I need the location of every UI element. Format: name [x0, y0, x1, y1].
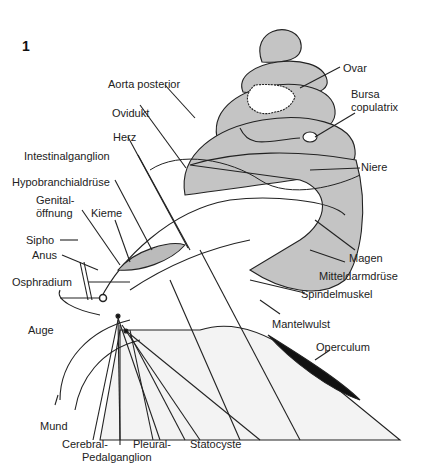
snail-anatomy-diagram: 1 Aorta posterior Ovidukt Herz Intestina…: [0, 0, 426, 463]
label-bursa-1: Bursa: [351, 88, 380, 100]
label-niere: Niere: [361, 161, 387, 173]
label-intestinalganglion: Intestinalganglion: [24, 150, 110, 162]
label-osphradium: Osphradium: [12, 276, 72, 288]
label-ovar: Ovar: [343, 62, 367, 74]
label-anus: Anus: [32, 249, 57, 261]
label-genital-1: Genital-: [36, 194, 75, 206]
label-genital-2: öffnung: [36, 207, 73, 219]
figure-number: 1: [22, 38, 30, 54]
label-spindelmuskel: Spindelmuskel: [301, 288, 373, 300]
label-cerebral: Cerebral-: [62, 438, 108, 450]
label-bursa-2: copulatrix: [351, 101, 398, 113]
label-hypobranchialdruese: Hypobranchialdrüse: [12, 176, 110, 188]
label-aorta-posterior: Aorta posterior: [108, 78, 180, 90]
label-statocyste: Statocyste: [190, 438, 241, 450]
label-sipho: Sipho: [26, 234, 54, 246]
label-pleural: Pleural-: [133, 438, 171, 450]
label-mitteldarmdruese: Mitteldarmdrüse: [319, 270, 398, 282]
label-operculum: Operculum: [316, 341, 370, 353]
label-pedalganglion: Pedalganglion: [82, 451, 152, 463]
label-magen: Magen: [349, 252, 383, 264]
label-mantelwulst: Mantelwulst: [272, 318, 330, 330]
label-mund: Mund: [40, 420, 68, 432]
label-ovidukt: Ovidukt: [112, 107, 149, 119]
label-herz: Herz: [113, 131, 136, 143]
label-kieme: Kieme: [91, 207, 122, 219]
label-auge: Auge: [28, 324, 54, 336]
